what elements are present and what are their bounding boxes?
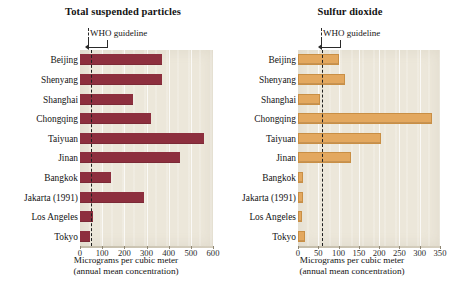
gridline [213, 50, 214, 246]
bar-tokyo [80, 231, 90, 242]
who-guideline-tickline-tsp [88, 28, 89, 40]
who-guideline-arrow-so2 [321, 40, 341, 48]
category-label: Tokyo [54, 232, 78, 242]
gridline [191, 50, 192, 246]
plot-area-tsp [80, 50, 213, 246]
category-label: Bangkok [262, 173, 296, 183]
panel-sulfur-dioxide: Sulfur dioxide WHO guideline Micrograms … [226, 0, 452, 303]
category-label: Jakarta (1991) [24, 193, 78, 203]
bar-shanghai [298, 94, 320, 105]
panel-title-tsp: Total suspended particles [0, 6, 226, 17]
bar-beijing [298, 54, 339, 65]
bar-taiyuan [80, 133, 204, 144]
bar-shenyang [298, 74, 345, 85]
plot-area-so2 [298, 50, 440, 246]
gridline [420, 50, 421, 246]
gridline [399, 50, 400, 246]
bar-jinan [80, 152, 180, 163]
category-label: Chongqing [36, 114, 78, 124]
who-guideline-label-so2: WHO guideline [323, 28, 380, 38]
bar-shenyang [80, 74, 162, 85]
figure-root: Total suspended particles WHO guideline … [0, 0, 452, 303]
who-guideline-label-tsp: WHO guideline [90, 28, 147, 38]
bar-bangkok [298, 172, 303, 183]
category-label: Jinan [276, 153, 296, 163]
category-label: Shanghai [261, 95, 296, 105]
category-label: Los Angeles [31, 212, 78, 222]
bar-tokyo [298, 231, 305, 242]
x-tick-label: 600 [199, 248, 227, 258]
bar-los-angeles [298, 211, 302, 222]
who-guideline-line [322, 50, 323, 246]
category-label: Shenyang [41, 75, 78, 85]
x-axis-subtitle-so2: (annual mean concentration) [226, 266, 452, 277]
category-label: Shenyang [259, 75, 296, 85]
category-label: Beijing [268, 55, 296, 65]
category-label: Bangkok [44, 173, 78, 183]
gridline [359, 50, 360, 246]
category-label: Taiyuan [266, 134, 296, 144]
bar-shanghai [80, 94, 133, 105]
bar-bangkok [80, 172, 111, 183]
gridline [440, 50, 441, 246]
bar-chongqing [298, 113, 432, 124]
panel-total-suspended-particles: Total suspended particles WHO guideline … [0, 0, 226, 303]
category-label: Los Angeles [249, 212, 296, 222]
bar-taiyuan [298, 133, 381, 144]
bar-jakarta-1991 [298, 192, 303, 203]
who-guideline-arrow-tsp [88, 40, 108, 48]
who-guideline-line [91, 50, 92, 246]
category-label: Tokyo [272, 232, 296, 242]
gridline [169, 50, 170, 246]
bar-jinan [298, 152, 351, 163]
who-guideline-tickline-so2 [321, 28, 322, 40]
category-label: Chongqing [254, 114, 296, 124]
bar-beijing [80, 54, 162, 65]
category-label: Taiyuan [48, 134, 78, 144]
category-label: Beijing [50, 55, 78, 65]
bar-jakarta-1991 [80, 192, 144, 203]
category-label: Shanghai [43, 95, 78, 105]
category-label: Jakarta (1991) [242, 193, 296, 203]
category-label: Jinan [58, 153, 78, 163]
x-axis-subtitle-tsp: (annual mean concentration) [0, 266, 226, 277]
panel-title-so2: Sulfur dioxide [226, 6, 452, 17]
gridline [379, 50, 380, 246]
x-tick-label: 350 [426, 248, 452, 258]
